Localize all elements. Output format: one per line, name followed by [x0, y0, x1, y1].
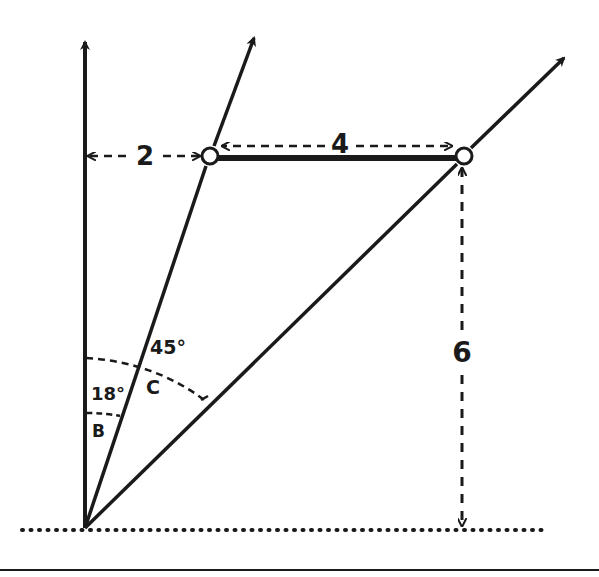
dimension-4-label: 4 [331, 129, 349, 159]
dimension-6-label: 6 [452, 336, 471, 369]
angle-arc-45-tick [201, 396, 208, 400]
angle-18-label: 18° [91, 383, 125, 404]
vector-18-deg-lower [85, 166, 206, 528]
diagram-canvas: 2 4 6 45° C 18° B [0, 0, 599, 577]
angle-arc-18 [86, 413, 120, 416]
angle-b-label: B [92, 421, 105, 441]
dimension-2-label: 2 [136, 141, 154, 171]
angle-c-label: C [146, 376, 160, 398]
angle-45-label: 45° [150, 336, 186, 358]
vector-45-deg-upper [471, 58, 564, 148]
left-pivot-circle [202, 148, 218, 164]
vector-45-deg-lower [85, 164, 457, 528]
right-pivot-circle [456, 148, 472, 164]
vector-18-deg-upper [214, 38, 254, 146]
